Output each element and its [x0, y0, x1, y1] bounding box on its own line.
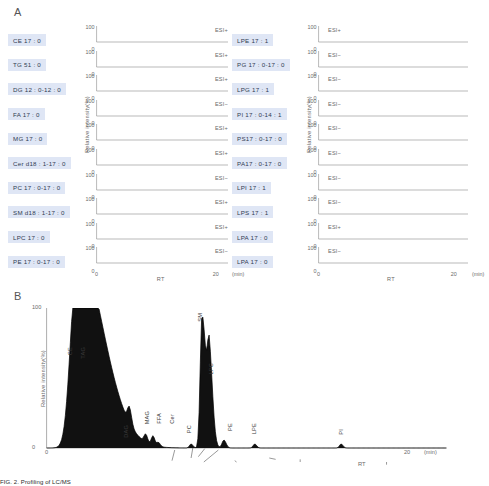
- lipid-standard-label: DG 12 : 0-12 : 0: [8, 83, 66, 95]
- figure-caption: FIG. 2. Profiling of LC/MS: [0, 479, 481, 486]
- chromatogram-row: 1000ESI−: [96, 174, 230, 199]
- y-tick-100: 100: [86, 50, 95, 55]
- peak-label: PC: [186, 425, 192, 433]
- chromatogram-row: 1000ESI−: [318, 100, 470, 125]
- chromatogram-row: 1000ESI−: [318, 247, 470, 272]
- ionization-mode-label: ESI+: [328, 224, 341, 230]
- ionization-mode-label: ESI−: [215, 175, 228, 181]
- panel-b-trace: [46, 308, 456, 458]
- chromatogram-trace: [96, 26, 228, 46]
- y-tick-100: 100: [308, 246, 317, 251]
- lipid-standard-label: LPC 17 : 0: [8, 231, 50, 243]
- y-tick-100: 100: [308, 25, 317, 30]
- ionization-mode-label: ESI+: [215, 199, 228, 205]
- lipid-standard-label: PI 17 : 0-14 : 1: [232, 108, 287, 120]
- peak-label: FFA: [156, 413, 162, 424]
- lipid-standard-label: PG 17 : 0-17 : 0: [232, 59, 290, 71]
- lipid-standard-label: SM d18 : 1-17 : 0: [8, 206, 70, 218]
- panel-b-x-tick-20: 20: [404, 450, 410, 456]
- chromatogram-trace: [96, 100, 228, 120]
- lipid-standard-label: Cer d18 : 1-17 : 0: [8, 157, 71, 169]
- panel-b: B Relative intensity(%) 1000020(min)RTCE…: [0, 288, 481, 478]
- ionization-mode-label: ESI−: [328, 248, 341, 254]
- chromatogram-row: 1000ESI+: [318, 26, 470, 51]
- chromatogram-trace: [96, 174, 228, 194]
- y-tick-100: 100: [86, 74, 95, 79]
- peak-label: SM: [197, 313, 203, 322]
- peak-label: CE: [67, 347, 73, 355]
- y-tick-100: 100: [308, 222, 317, 227]
- chromatogram-row: 1000ESI−: [96, 100, 230, 125]
- y-tick-100: 100: [86, 123, 95, 128]
- chromatogram-row: 1000ESI−: [318, 198, 470, 223]
- x-tick-20: 20: [451, 271, 457, 277]
- x-axis: 0RT20(min): [318, 272, 470, 285]
- y-tick-100: 100: [308, 148, 317, 153]
- chromatogram-row: 1000ESI−: [318, 51, 470, 76]
- x-axis-unit: (min): [472, 271, 484, 277]
- peak-label: Cer: [169, 414, 175, 424]
- lipid-standard-label: LPE 17 : 1: [232, 34, 273, 46]
- y-tick-100: 100: [308, 123, 317, 128]
- lipid-standard-label: PE 17 : 0-17 : 0: [8, 256, 65, 268]
- chromatogram-row: 1000ESI−: [318, 124, 470, 149]
- chromatogram-row: 1000ESI+: [96, 223, 230, 248]
- panel-a-right-chromatogram-group: 1000ESI+1000ESI−1000ESI−1000ESI−1000ESI−…: [318, 26, 470, 285]
- y-tick-100: 100: [308, 197, 317, 202]
- chromatogram-row: 1000ESI+: [96, 26, 230, 51]
- chromatogram-row: 1000ESI−: [318, 174, 470, 199]
- y-tick-100: 100: [86, 173, 95, 178]
- chromatogram-row: 1000ESI+: [96, 198, 230, 223]
- lipid-standard-label: TG 51 : 0: [8, 59, 46, 71]
- ionization-mode-label: ESI+: [215, 150, 228, 156]
- panel-a: A CE 17 : 0TG 51 : 0DG 12 : 0-12 : 0FA 1…: [0, 0, 481, 288]
- chromatogram-trace: [96, 51, 228, 71]
- ionization-mode-label: ESI−: [215, 101, 228, 107]
- y-tick-100: 100: [86, 246, 95, 251]
- lipid-standard-label: LPG 17 : 1: [232, 83, 274, 95]
- lipid-standard-label: PC 17 : 0-17 : 0: [8, 182, 65, 194]
- chromatogram-row: 1000ESI−: [96, 247, 230, 272]
- y-tick-100: 100: [308, 173, 317, 178]
- panel-b-chromatogram: [46, 308, 456, 462]
- chromatogram-trace: [96, 124, 228, 144]
- chromatogram-trace: [96, 223, 228, 243]
- y-tick-100: 100: [86, 99, 95, 104]
- lipid-standard-label: PA17 : 0-17 : 0: [232, 157, 287, 169]
- y-tick-100: 100: [86, 197, 95, 202]
- ionization-mode-label: ESI+: [215, 125, 228, 131]
- lipid-standard-label: LPA 17 : 0: [232, 231, 273, 243]
- ionization-mode-label: ESI+: [215, 76, 228, 82]
- ionization-mode-label: ESI−: [328, 175, 341, 181]
- ionization-mode-label: ESI+: [328, 27, 341, 33]
- ionization-mode-label: ESI−: [328, 101, 341, 107]
- x-axis: 0RT20(min): [96, 272, 230, 285]
- panel-a-middle-label-column: LPE 17 : 1PG 17 : 0-17 : 0LPG 17 : 1PI 1…: [232, 28, 308, 274]
- chromatogram-trace: [96, 149, 228, 169]
- chromatogram-row: 1000ESI−: [318, 75, 470, 100]
- x-axis-label: RT: [387, 276, 395, 282]
- lipid-standard-label: CE 17 : 0: [8, 34, 46, 46]
- lipid-standard-label: LPS 17 : 1: [232, 206, 273, 218]
- chromatogram-row: 1000ESI−: [318, 149, 470, 174]
- chromatogram-row: 1000ESI+: [96, 124, 230, 149]
- peak-label: DAG: [123, 425, 129, 438]
- peak-label: PE: [227, 423, 233, 431]
- x-tick-0: 0: [95, 271, 98, 277]
- chromatogram-trace: [96, 198, 228, 218]
- chromatogram-row: 1000ESI+: [318, 223, 470, 248]
- ionization-mode-label: ESI−: [328, 76, 341, 82]
- lipid-standard-label: PS17 : 0-17 : 0: [232, 133, 287, 145]
- lipid-standard-label: FA 17 : 0: [8, 108, 45, 120]
- lipid-standard-label: LPA 17 : 0: [232, 256, 273, 268]
- chromatogram-trace: [96, 75, 228, 95]
- panel-b-x-axis-label: RT: [358, 462, 366, 468]
- ionization-mode-label: ESI+: [215, 52, 228, 58]
- y-tick-100: 100: [308, 99, 317, 104]
- peak-label: LPC: [208, 363, 214, 374]
- panel-b-x-axis-unit: (min): [424, 450, 437, 456]
- y-tick-100: 100: [86, 148, 95, 153]
- ionization-mode-label: ESI+: [215, 224, 228, 230]
- panel-b-letter: B: [14, 290, 22, 302]
- panel-a-letter: A: [14, 6, 22, 18]
